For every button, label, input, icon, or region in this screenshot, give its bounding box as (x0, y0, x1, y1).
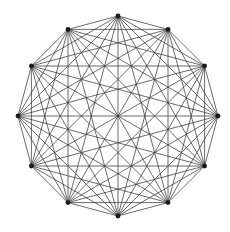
graph-edge (18, 116, 168, 203)
complete-graph-figure (0, 0, 230, 232)
graph-edge (68, 29, 205, 166)
graph-vertex (202, 64, 207, 69)
graph-edge (31, 29, 168, 166)
graph-vertex (166, 200, 171, 205)
graph-vertex (66, 27, 71, 32)
graph-edge (18, 116, 31, 166)
graph-edge (31, 29, 68, 166)
graph-vertex (66, 200, 71, 205)
graph-edge (205, 66, 218, 116)
graph-edge (68, 16, 118, 29)
graph-edge (31, 166, 118, 216)
graph-vertex (29, 164, 34, 169)
graph-edge (68, 29, 205, 66)
graph-vertex (216, 114, 221, 119)
graph-vertex (16, 114, 21, 119)
graph-edge (205, 116, 218, 166)
graph-edge (18, 66, 31, 116)
graph-canvas (0, 0, 230, 232)
graph-vertex (116, 14, 121, 19)
graph-edge (31, 66, 118, 216)
graph-vertex (116, 214, 121, 219)
graph-vertex (166, 27, 171, 32)
graph-edge (18, 29, 68, 116)
graph-edge (118, 16, 168, 29)
graph-edge (31, 66, 68, 203)
graph-edge (31, 66, 168, 203)
graph-edge (18, 116, 68, 203)
graph-edge (68, 203, 118, 216)
graph-edge (68, 66, 205, 203)
edge-layer (18, 16, 218, 216)
graph-edge (68, 29, 218, 116)
graph-vertex (202, 164, 207, 169)
graph-vertex (29, 64, 34, 69)
graph-edge (118, 203, 168, 216)
